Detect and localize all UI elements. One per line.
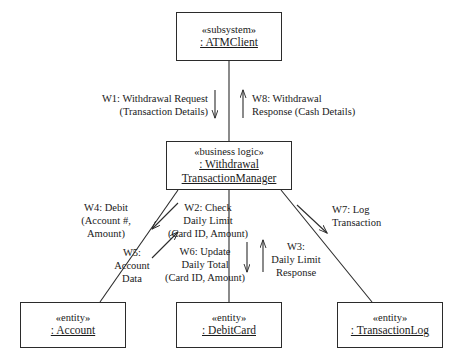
diagram-canvas: «subsystem» : ATMClient «business logic»… bbox=[0, 0, 456, 360]
message-label-w1: W1: Withdrawal Request (Transaction Deta… bbox=[62, 92, 208, 118]
node-transactionlog[interactable]: «entity» : TransactionLog bbox=[337, 302, 443, 348]
node-withdrawaltransactionmanager[interactable]: «business logic» : Withdrawal Transactio… bbox=[166, 141, 292, 190]
message-label-w8: W8: Withdrawal Response (Cash Details) bbox=[252, 92, 402, 118]
node-account-stereotype: «entity» bbox=[56, 312, 90, 324]
node-debitcard-stereotype: «entity» bbox=[212, 312, 246, 324]
message-label-w7: W7: Log Transaction bbox=[332, 203, 432, 229]
node-atmclient-stereotype: «subsystem» bbox=[202, 24, 256, 36]
node-withdrawaltransactionmanager-stereotype: «business logic» bbox=[194, 146, 264, 158]
node-account[interactable]: «entity» : Account bbox=[20, 302, 126, 348]
node-transactionlog-stereotype: «entity» bbox=[373, 312, 407, 324]
message-label-w3: W3: Daily Limit Response bbox=[258, 240, 334, 279]
node-account-name: : Account bbox=[51, 324, 95, 338]
node-atmclient[interactable]: «subsystem» : ATMClient bbox=[176, 12, 282, 61]
node-debitcard-name: : DebitCard bbox=[202, 324, 256, 338]
node-withdrawaltransactionmanager-name-line2: TransactionManager bbox=[182, 172, 277, 186]
message-label-w4: W4: Debit (Account #, Amount) bbox=[58, 201, 154, 240]
node-atmclient-name: : ATMClient bbox=[200, 36, 258, 50]
message-label-w6: W6: Update Daily Total (Card ID, Amount) bbox=[150, 245, 260, 284]
node-debitcard[interactable]: «entity» : DebitCard bbox=[176, 302, 282, 348]
node-transactionlog-name: : TransactionLog bbox=[351, 324, 429, 338]
message-label-w2: W2: Check Daily Limit (Card ID, Amount) bbox=[155, 201, 261, 240]
node-withdrawaltransactionmanager-name-line1: : Withdrawal bbox=[199, 158, 259, 172]
